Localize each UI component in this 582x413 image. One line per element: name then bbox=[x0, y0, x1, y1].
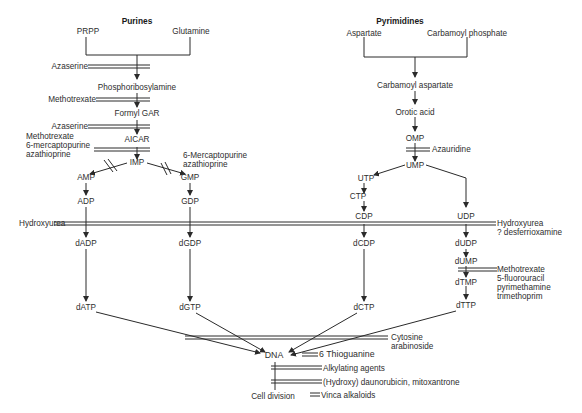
inhibitor-hydroxyurea-right: Hydroxyurea ? desferrioxamine bbox=[497, 219, 562, 237]
node-dadp: dADP bbox=[75, 239, 96, 248]
inhibitor-hydroxyurea-left: Hydroxyurea bbox=[19, 219, 65, 228]
node-dgtp: dGTP bbox=[179, 303, 200, 312]
node-aicar: AICAR bbox=[124, 135, 149, 144]
inhibitor-dump-block: Methotrexate 5-fluorouracil pyrimethamin… bbox=[497, 265, 551, 301]
inhibitor-alkylating-agents: Alkylating agents bbox=[323, 364, 385, 373]
node-orotic-acid: Orotic acid bbox=[395, 108, 434, 117]
node-cdp: CDP bbox=[355, 212, 372, 221]
node-ump: UMP bbox=[406, 161, 424, 170]
inhibitor-methotrexate-1: Methotrexate bbox=[48, 95, 96, 104]
node-gmp: GMP bbox=[181, 173, 200, 182]
node-utp: UTP bbox=[358, 174, 374, 183]
node-formyl-gar: Formyl GAR bbox=[114, 109, 159, 118]
node-udp: UDP bbox=[457, 212, 474, 221]
node-carbamoyl-aspartate: Carbamoyl aspartate bbox=[377, 81, 453, 90]
inhibitor-gmp-block: 6-Mercaptopurine azathioprine bbox=[183, 151, 247, 169]
inhibitor-azaserine-1: Azaserine bbox=[52, 62, 88, 71]
node-dudp: dUDP bbox=[455, 239, 477, 248]
node-aspartate: Aspartate bbox=[346, 29, 381, 38]
node-gdp: GDP bbox=[181, 197, 199, 206]
pyrimidines-heading: Pyrimidines bbox=[376, 17, 423, 26]
inhibitor-azauridine: Azauridine bbox=[432, 145, 471, 154]
nucleotide-synthesis-diagram: Purines Pyrimidines PRPP Glutamine Phosp… bbox=[0, 0, 582, 413]
node-ctp: CTP bbox=[350, 192, 366, 201]
inhibitor-vinca-alkaloids: Vinca alkaloids bbox=[321, 391, 375, 400]
node-prpp: PRPP bbox=[77, 27, 99, 36]
node-dna: DNA bbox=[265, 351, 284, 360]
inhibitor-cytosine-arabinoside: Cytosine arabinoside bbox=[391, 333, 433, 351]
node-amp: AMP bbox=[77, 173, 95, 182]
inhibitor-azaserine-2: Azaserine bbox=[52, 122, 88, 131]
node-dcdp: dCDP bbox=[353, 239, 375, 248]
node-dump: dUMP bbox=[455, 257, 478, 266]
inhibitor-aicar-block: Methotrexate 6-mercaptopurine azathiopri… bbox=[26, 132, 90, 159]
inhibitor-daunorubicin: (Hydroxy) daunorubicin, mitoxantrone bbox=[323, 378, 460, 387]
node-adp: ADP bbox=[78, 197, 95, 206]
node-dttp: dTTP bbox=[456, 301, 476, 310]
inhibitor-thioguanine: 6 Thioguanine bbox=[319, 350, 375, 359]
node-dctp: dCTP bbox=[354, 303, 375, 312]
node-imp: IMP bbox=[130, 158, 145, 167]
node-omp: OMP bbox=[406, 134, 425, 143]
node-glutamine: Glutamine bbox=[172, 27, 209, 36]
node-phosphoribosylamine: Phosphoribosylamine bbox=[98, 83, 176, 92]
node-datp: dATP bbox=[76, 303, 96, 312]
node-dtmp: dTMP bbox=[455, 278, 477, 287]
node-dgdp: dGDP bbox=[179, 239, 201, 248]
node-cell-division: Cell division bbox=[251, 392, 295, 401]
node-carbamoyl-phosphate: Carbamoyl phosphate bbox=[427, 29, 507, 38]
purines-heading: Purines bbox=[122, 17, 153, 26]
